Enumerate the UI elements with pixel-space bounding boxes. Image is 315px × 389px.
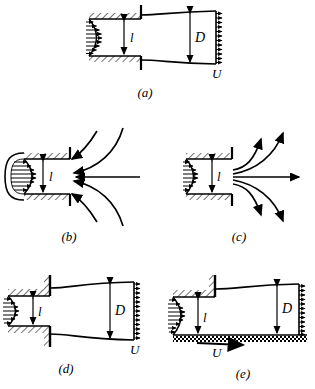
panel-a-label-d: D xyxy=(194,30,205,45)
panel-d-exit-velocity-arrows xyxy=(134,284,140,338)
panel-e-dimension-d: D xyxy=(277,286,292,333)
panel-c-streamlines xyxy=(233,133,299,221)
panel-d-label-u: U xyxy=(130,342,141,357)
panel-a-upper-wall xyxy=(89,5,141,19)
panel-b-upper-wall xyxy=(24,147,70,159)
panel-c-upper-wall xyxy=(186,147,232,159)
panel-e-moving-ground xyxy=(173,335,307,342)
panel-a-inlet-velocity-profile xyxy=(86,19,102,56)
panel-b-streamlines xyxy=(72,128,140,226)
panel-e-dimension-l: l xyxy=(198,299,207,333)
panel-e: l D xyxy=(168,275,307,381)
panel-d: l U xyxy=(3,275,141,376)
panel-a: l U xyxy=(86,5,223,100)
panel-e-label-l: l xyxy=(203,310,207,325)
panel-a-exit-plane: U xyxy=(212,11,223,81)
panel-d-label-d: D xyxy=(114,303,125,318)
panel-d-dimension-d: D xyxy=(110,284,125,338)
panel-d-lower-wall xyxy=(8,326,50,347)
panel-a-label-l: l xyxy=(130,30,134,45)
panel-c-lower-wall xyxy=(186,194,232,206)
panel-b-inlet-velocity-profile xyxy=(11,159,36,194)
panel-a-exit-velocity-arrows xyxy=(216,14,222,63)
panel-e-surface-velocity-arrow: U xyxy=(197,343,243,360)
panel-b-dimension-l: l xyxy=(43,161,53,192)
panel-a-dimension-d: D xyxy=(190,13,205,62)
panel-a-caption: (a) xyxy=(137,85,152,100)
panel-a-dimension-l: l xyxy=(124,21,134,54)
figure-container: l U xyxy=(0,0,315,389)
panel-d-label-l: l xyxy=(38,304,42,319)
panel-c: l (c) xyxy=(183,133,299,244)
panel-c-caption: (c) xyxy=(232,229,246,244)
panel-e-upper-wall xyxy=(173,275,215,297)
panel-c-dimension-l: l xyxy=(212,161,221,192)
panel-a-lower-wall xyxy=(89,56,141,70)
panel-d-inlet-velocity-profile xyxy=(3,296,19,326)
panel-b: l (b) xyxy=(5,128,140,244)
panel-d-dimension-l: l xyxy=(33,298,42,324)
panel-d-exit-plane: U xyxy=(130,282,141,357)
panel-b-caption: (b) xyxy=(61,229,76,244)
panel-e-exit-plane xyxy=(299,284,305,335)
panel-e-label-u: U xyxy=(212,345,223,360)
panel-e-jet-boundary xyxy=(215,284,299,289)
panel-d-upper-wall xyxy=(8,275,50,296)
panel-c-label-l: l xyxy=(217,169,221,184)
panel-d-caption: (d) xyxy=(58,361,73,376)
panel-e-inlet-velocity-profile xyxy=(168,297,185,335)
panel-e-label-d: D xyxy=(281,301,292,316)
panel-e-caption: (e) xyxy=(236,366,250,381)
panel-c-inlet-velocity-profile xyxy=(183,159,198,194)
panel-a-label-u: U xyxy=(212,66,223,81)
panel-e-exit-velocity-arrows xyxy=(299,286,305,335)
panel-b-lower-wall xyxy=(24,194,70,206)
panel-b-label-l: l xyxy=(49,169,53,184)
